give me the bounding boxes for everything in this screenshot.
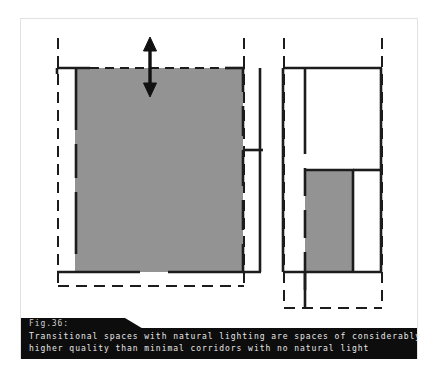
right-plan-shaded-corridor [305,170,353,272]
caption-band: Transitional spaces with natural lightin… [21,328,417,359]
figure-number-label: Fig.36: [29,318,69,330]
left-plan-shaded-space [75,68,243,272]
plans-svg [20,18,418,359]
caption-line-2: higher quality than minimal corridors wi… [29,343,369,354]
figure-number-tab: Fig.36: [21,318,145,330]
architectural-plans-drawing [20,18,418,359]
left-plan-group [57,37,263,286]
caption-line-1: Transitional spaces with natural lightin… [29,331,421,342]
figure-caption: Transitional spaces with natural lightin… [21,318,417,359]
right-plan-group [283,38,382,308]
figure-root: Transitional spaces with natural lightin… [0,0,437,376]
